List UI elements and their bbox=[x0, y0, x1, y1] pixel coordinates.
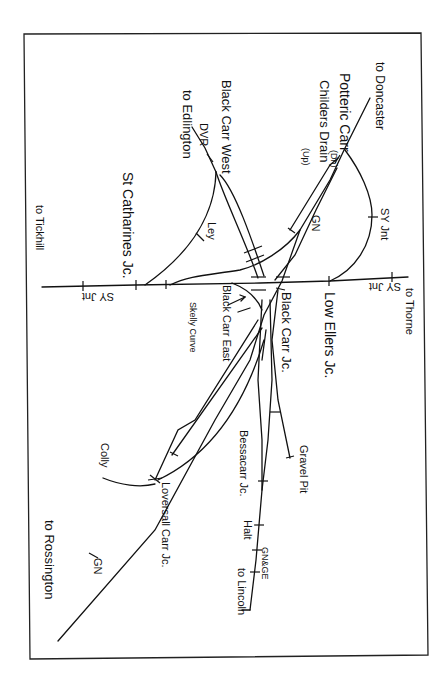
label-sy-jnt-curve: SY Jnt bbox=[379, 208, 391, 240]
label-to-tickhill: to Tickhill bbox=[34, 205, 46, 250]
railway-junction-diagram: to Doncaster Potteric Carr (Dn) Childers… bbox=[0, 0, 448, 678]
label-dvr: DVR bbox=[198, 123, 210, 146]
svg-text:Childers Drain: Childers Drain bbox=[317, 80, 332, 162]
label-gravel-pit: Gravel Pit bbox=[298, 445, 310, 493]
black-carr-west-down bbox=[216, 172, 258, 278]
svg-text:(Up): (Up) bbox=[301, 148, 311, 166]
label-black-carr-jc: Black Carr Jc. bbox=[279, 292, 294, 373]
black-carr-east-curve bbox=[232, 283, 262, 310]
gnge-line-east bbox=[262, 300, 272, 490]
label-st-catharines-jc: St Catharines Jc. bbox=[120, 172, 136, 279]
svg-text:to Doncaster: to Doncaster bbox=[373, 62, 387, 130]
svg-text:Gravel Pit: Gravel Pit bbox=[298, 445, 310, 493]
label-sy-jnt-west: SY Jnt bbox=[82, 291, 114, 303]
label-low-ellers-jc: Low Ellers Jc. bbox=[322, 292, 338, 378]
svg-text:Loversall Carr Jc.: Loversall Carr Jc. bbox=[160, 482, 172, 568]
label-black-carr-east-1: Black Carr East bbox=[221, 285, 233, 361]
svg-text:to Edlington: to Edlington bbox=[180, 90, 195, 159]
svg-text:SY Jnt: SY Jnt bbox=[82, 291, 114, 303]
label-halt: Halt bbox=[242, 520, 254, 540]
label-bessacarr-jc: Bessacarr Jc. bbox=[238, 430, 250, 497]
svg-text:Bessacarr Jc.: Bessacarr Jc. bbox=[238, 430, 250, 497]
svg-text:St Catharines Jc.: St Catharines Jc. bbox=[120, 172, 136, 279]
svg-text:to Tickhill: to Tickhill bbox=[34, 205, 46, 250]
label-sy-jnt-east: SY Jnt bbox=[369, 281, 401, 293]
label-curve: Skelly Curve bbox=[188, 302, 198, 353]
svg-text:GN: GN bbox=[92, 558, 104, 575]
svg-text:to Rossington: to Rossington bbox=[42, 520, 57, 600]
svg-text:Skelly Curve: Skelly Curve bbox=[188, 302, 198, 353]
label-colly: Colly bbox=[99, 443, 111, 468]
svg-text:Black Carr West: Black Carr West bbox=[219, 80, 234, 174]
label-to-lincoln: to Lincoln bbox=[236, 568, 248, 615]
label-to-thorne: to Thorne bbox=[404, 288, 416, 335]
svg-text:SY Jnt: SY Jnt bbox=[369, 281, 401, 293]
svg-text:Potteric Carr: Potteric Carr bbox=[337, 73, 353, 152]
label-to-rossington: to Rossington bbox=[42, 520, 57, 600]
label-ley: Ley bbox=[206, 222, 218, 240]
svg-text:Black Carr Jc.: Black Carr Jc. bbox=[279, 292, 294, 373]
svg-text:Colly: Colly bbox=[99, 443, 111, 468]
label-childers-drain-suffix: (Up) bbox=[301, 148, 311, 166]
label-childers-drain: Childers Drain bbox=[317, 80, 332, 162]
label-to-edlington: to Edlington bbox=[180, 90, 195, 159]
label-black-carr-west: Black Carr West bbox=[219, 80, 234, 174]
label-gnge: GN&GE bbox=[260, 547, 270, 580]
label-gn-lower: GN bbox=[92, 558, 104, 575]
label-loversall-carr-jc: Loversall Carr Jc. bbox=[160, 482, 172, 568]
colly-spur bbox=[103, 478, 155, 486]
label-gn-upper: GN bbox=[310, 215, 322, 232]
svg-text:SY Jnt: SY Jnt bbox=[379, 208, 391, 240]
svg-text:Halt: Halt bbox=[242, 520, 254, 540]
label-potteric-carr: Potteric Carr bbox=[337, 73, 353, 152]
svg-text:to Thorne: to Thorne bbox=[404, 288, 416, 335]
svg-text:to Lincoln: to Lincoln bbox=[236, 568, 248, 615]
svg-text:DVR: DVR bbox=[198, 123, 210, 146]
svg-text:GN&GE: GN&GE bbox=[260, 547, 270, 580]
ley-curve bbox=[145, 172, 216, 285]
black-carr-west-up bbox=[220, 175, 264, 276]
svg-text:Black Carr East: Black Carr East bbox=[221, 285, 233, 361]
gn-parallel-line bbox=[290, 165, 330, 230]
label-to-doncaster: to Doncaster bbox=[373, 62, 387, 130]
svg-text:GN: GN bbox=[310, 215, 322, 232]
svg-text:Ley: Ley bbox=[206, 222, 218, 240]
svg-text:Low Ellers Jc.: Low Ellers Jc. bbox=[322, 292, 338, 378]
